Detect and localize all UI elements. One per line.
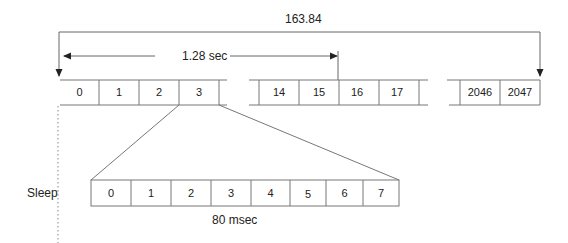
bottom-cell: 4 xyxy=(251,188,290,199)
bottom-cell: 5 xyxy=(290,189,326,200)
top-cell: 2046 xyxy=(460,87,500,98)
top-cell: 14 xyxy=(259,87,299,98)
diagram-lines xyxy=(0,0,568,243)
bottom-cell: 3 xyxy=(211,188,251,199)
top-cell: 2 xyxy=(139,87,179,98)
bottom-cell: 6 xyxy=(326,188,363,199)
bottom-cell: 7 xyxy=(363,188,399,199)
bottom-cell: 0 xyxy=(91,188,131,199)
total-period-label: 163.84 xyxy=(285,13,322,25)
top-cell: 1 xyxy=(99,87,139,98)
top-cell: 2047 xyxy=(500,87,540,98)
top-cell: 0 xyxy=(60,87,99,98)
bottom-cell: 2 xyxy=(171,188,211,199)
frame-period-label: 1.28 sec xyxy=(182,50,227,62)
slot-period-label: 80 msec xyxy=(212,214,257,226)
total-period-bracket xyxy=(59,32,540,76)
top-cell: 17 xyxy=(379,87,415,98)
sleep-label: Sleep xyxy=(27,187,58,199)
zoom-fan-lines xyxy=(91,105,399,180)
top-cell: 16 xyxy=(339,87,375,98)
top-cell: 3 xyxy=(179,87,219,98)
top-cell: 15 xyxy=(299,87,339,98)
bottom-cell: 1 xyxy=(131,188,171,199)
